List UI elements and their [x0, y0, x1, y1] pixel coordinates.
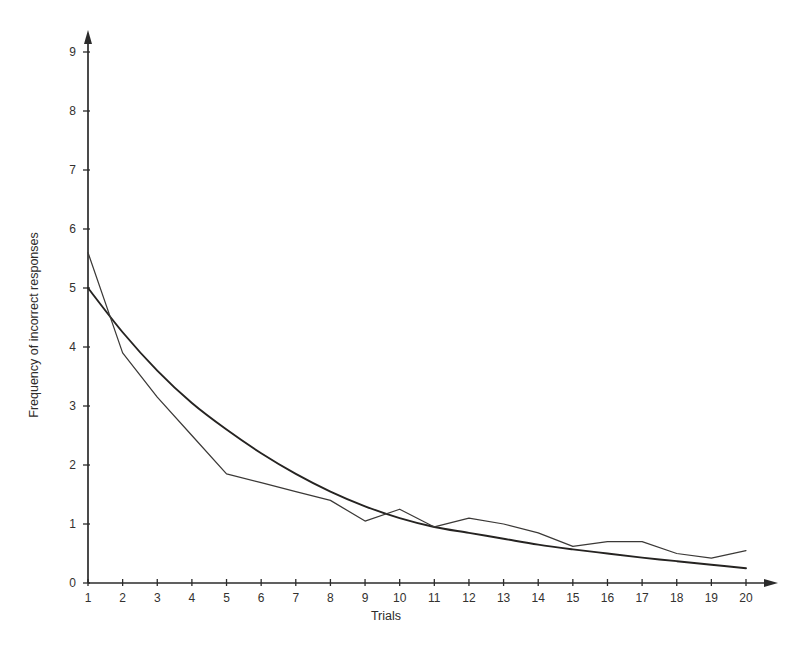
y-tick-label: 0: [69, 576, 76, 590]
x-tick-label: 6: [258, 591, 265, 605]
x-tick-label: 17: [635, 591, 649, 605]
x-tick-label: 7: [292, 591, 299, 605]
line-chart-canvas: 0123456789 Frequency of incorrect respon…: [0, 0, 802, 650]
y-tick-label: 7: [69, 163, 76, 177]
x-tick-label: 5: [223, 591, 230, 605]
x-tick-label: 16: [601, 591, 615, 605]
x-tick-label: 20: [739, 591, 753, 605]
y-tick-label: 4: [69, 340, 76, 354]
x-tick-label: 9: [362, 591, 369, 605]
y-tick-label: 3: [69, 399, 76, 413]
x-tick-label: 10: [393, 591, 407, 605]
series-group: [88, 253, 746, 569]
x-tick-label: 13: [497, 591, 511, 605]
y-tick-group: 0123456789: [69, 45, 90, 590]
x-tick-label: 11: [428, 591, 441, 605]
chart-figure: 0123456789 Frequency of incorrect respon…: [0, 0, 802, 650]
x-tick-label: 8: [327, 591, 334, 605]
y-axis-title: Frequency of incorrect responses: [27, 232, 41, 418]
y-axis: 0123456789 Frequency of incorrect respon…: [27, 30, 92, 590]
y-tick-label: 9: [69, 45, 76, 59]
x-tick-label: 4: [189, 591, 196, 605]
series-fitted-exponential-curve: [88, 288, 746, 568]
y-tick-label: 1: [69, 517, 76, 531]
x-tick-label: 15: [566, 591, 580, 605]
x-tick-label: 12: [462, 591, 476, 605]
x-axis: 1234567891011121314151617181920 Trials: [85, 579, 778, 623]
x-axis-arrow-icon: [764, 579, 778, 587]
x-tick-label: 14: [532, 591, 546, 605]
x-tick-label: 18: [670, 591, 684, 605]
y-tick-label: 8: [69, 104, 76, 118]
x-tick-label: 3: [154, 591, 161, 605]
series-observed-frequency-line: [88, 253, 746, 559]
y-tick-label: 2: [69, 458, 76, 472]
x-axis-title: Trials: [371, 609, 401, 623]
y-tick-label: 6: [69, 222, 76, 236]
x-tick-label: 2: [119, 591, 126, 605]
y-axis-arrow-icon: [84, 30, 92, 44]
x-tick-label: 19: [705, 591, 719, 605]
y-tick-label: 5: [69, 281, 76, 295]
x-tick-label: 1: [85, 591, 92, 605]
